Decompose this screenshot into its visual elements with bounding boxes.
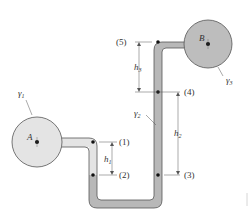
tank-b-label: B [199, 33, 205, 43]
point-2-dot [91, 173, 95, 177]
tank-a-label: A [26, 132, 33, 142]
fluid-label-gamma2: γ2 [134, 108, 156, 125]
tank-a: A [12, 117, 62, 167]
svg-text:h3: h3 [134, 62, 142, 73]
tank-b: B [184, 20, 232, 68]
manometer-diagram: A B h1 h2 h3 (1) (2) (3) (4) (5) γ1 [0, 0, 249, 218]
point-5-label: (5) [116, 37, 127, 47]
point-1-dot [91, 140, 95, 144]
dimension-h1: h1 [104, 142, 114, 175]
svg-text:h1: h1 [104, 154, 112, 165]
svg-text:γ3: γ3 [226, 75, 233, 86]
dimension-h2: h2 [174, 92, 182, 175]
dimension-h3: h3 [134, 42, 142, 92]
svg-text:γ2: γ2 [134, 108, 141, 119]
point-4-label: (4) [184, 87, 195, 97]
fluid-label-gamma3: γ3 [218, 67, 233, 86]
tube-outline-inner [55, 48, 190, 208]
point-2-label: (2) [119, 170, 130, 180]
point-3-dot [156, 173, 160, 177]
svg-text:γ1: γ1 [18, 88, 25, 99]
point-1-label: (1) [119, 137, 130, 147]
fluid-label-gamma1: γ1 [18, 88, 32, 115]
svg-text:h2: h2 [174, 128, 182, 139]
point-3-label: (3) [184, 170, 195, 180]
point-5-dot [156, 40, 160, 44]
